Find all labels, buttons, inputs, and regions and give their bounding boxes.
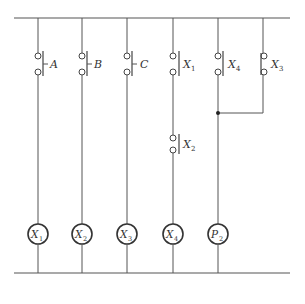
rung-3: C X 3 <box>117 18 149 273</box>
svg-text:X: X <box>165 228 174 240</box>
ladder-diagram: A X 1 B X 2 <box>0 0 305 304</box>
svg-text:2: 2 <box>83 235 87 243</box>
svg-text:X: X <box>30 228 39 240</box>
contact-B: B <box>79 51 102 76</box>
svg-text:P: P <box>210 228 219 240</box>
svg-text:2: 2 <box>219 235 223 243</box>
coil-X2: X 2 <box>72 224 92 244</box>
contact-label: C <box>140 58 149 71</box>
coil-X1: X 1 <box>28 224 48 244</box>
coil-X3: X 3 <box>117 224 137 244</box>
svg-text:X: X <box>74 228 83 240</box>
svg-text:3: 3 <box>128 235 132 243</box>
rung-1: A X 1 <box>28 18 58 273</box>
svg-text:2: 2 <box>191 145 195 153</box>
svg-text:3: 3 <box>279 65 283 73</box>
contact-A: A <box>35 51 58 76</box>
rung-2: B X 2 <box>72 18 102 273</box>
junction-dot <box>216 111 220 115</box>
rung-5: X 4 X 3 P 2 <box>208 18 283 273</box>
coil-X4: X 4 <box>163 224 183 244</box>
contact-X1: X 1 <box>170 51 195 76</box>
contact-X2: X 2 <box>170 134 195 154</box>
contact-X4: X 4 <box>215 51 241 76</box>
svg-text:1: 1 <box>39 235 43 243</box>
svg-text:4: 4 <box>174 235 178 243</box>
contact-label: B <box>93 58 102 71</box>
contact-C: C <box>124 51 149 76</box>
coil-P2: P 2 <box>208 224 228 244</box>
contact-label: A <box>49 58 58 71</box>
svg-text:4: 4 <box>236 65 241 73</box>
rung-4: X 1 X 2 X 4 <box>163 18 195 273</box>
svg-text:1: 1 <box>191 65 195 73</box>
svg-text:X: X <box>119 228 128 240</box>
contact-X3-nc: X 3 <box>261 53 283 75</box>
